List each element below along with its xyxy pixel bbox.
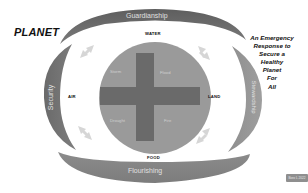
tagline-line: Healthy bbox=[236, 58, 308, 66]
tagline-line: An Emergency bbox=[236, 34, 308, 42]
tagline-line: Response to bbox=[236, 42, 308, 50]
element-label-food: FOOD bbox=[147, 155, 160, 160]
cross-horizontal bbox=[100, 87, 200, 105]
arrow-top-left-icon bbox=[80, 45, 94, 58]
quadrant-label-fire: Fire bbox=[164, 118, 171, 123]
element-label-air: AIR bbox=[68, 94, 76, 99]
arrow-top-right-icon bbox=[198, 46, 210, 60]
quadrant-label-flood: Flood bbox=[160, 70, 170, 75]
author-badge: Boro L 2022 bbox=[286, 174, 308, 182]
arrow-bottom-left-icon bbox=[78, 126, 92, 140]
quadrant-label-storm: Storm bbox=[110, 69, 121, 74]
element-label-water: WATER bbox=[145, 31, 161, 36]
quadrant-label-drought: Drought bbox=[110, 118, 125, 123]
element-label-land: LAND bbox=[208, 94, 220, 99]
tagline-line: Planet bbox=[236, 66, 308, 74]
arc-label-top: Guardianship bbox=[126, 12, 168, 19]
arc-label-left: Security bbox=[47, 78, 54, 118]
planet-title: PLANET bbox=[14, 26, 59, 38]
tagline-line: For bbox=[236, 74, 308, 82]
tagline-line: All bbox=[236, 83, 308, 91]
tagline: An Emergency Response to Secure a Health… bbox=[236, 34, 308, 91]
arc-label-bottom: Flourishing bbox=[128, 167, 162, 174]
tagline-line: Secure a bbox=[236, 50, 308, 58]
